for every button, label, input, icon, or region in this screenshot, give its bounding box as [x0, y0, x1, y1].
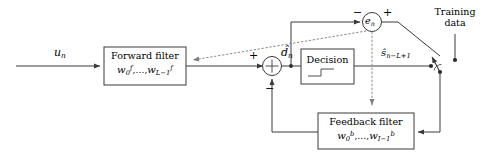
summing-minus-sign: −: [265, 83, 274, 94]
summing-plus-sign: +: [249, 50, 258, 61]
diagram-lines: [0, 0, 492, 152]
error-minus-text: −: [353, 6, 362, 19]
switch-contact-right: [453, 58, 457, 62]
summing-minus-text: −: [265, 82, 274, 95]
fb-coef-base-last: w: [369, 130, 378, 141]
feedback-to-sum-line: [272, 79, 318, 132]
training-data-line2: data: [425, 17, 485, 28]
fb-coef-ellipsis: ,…,: [354, 131, 369, 141]
ff-coef-ellipsis: ,…,: [133, 65, 148, 75]
soft-estimate-sub: n: [288, 51, 293, 60]
soft-estimate-base: d̂: [281, 46, 288, 59]
fb-coef-sup-last: b: [390, 130, 394, 138]
training-data-line1: Training: [425, 6, 485, 17]
soft-estimate-label: d̂n: [281, 47, 293, 60]
error-plus-sign: +: [383, 7, 392, 18]
feedback-filter-coefficients: w0b,…,wI−1b: [318, 130, 414, 143]
decision-title: Decision: [307, 54, 349, 65]
fb-coef-last-sub: I−1: [378, 135, 391, 143]
feedback-filter-label: Feedback filter: [318, 116, 414, 127]
switch-to-feedback-line: [418, 72, 440, 132]
switch-blade: [432, 57, 440, 72]
feedback-filter-title: Feedback filter: [329, 116, 402, 127]
decision-output-sub: n−L+1: [386, 52, 411, 60]
switch-contact-left: [429, 64, 433, 68]
decision-label: Decision: [301, 54, 354, 65]
error-signal-sub: n: [371, 20, 375, 28]
input-signal-label: un: [54, 47, 66, 60]
ff-coef-base-last: w: [147, 64, 156, 75]
input-signal-sub: n: [61, 51, 66, 60]
forward-filter-coefficients: w0f,…,wL−1f: [104, 64, 186, 77]
forward-filter-label: Forward filter: [104, 50, 186, 61]
error-plus-text: +: [383, 6, 392, 19]
dhat-branch-dot: [289, 64, 293, 68]
summing-plus-text: +: [249, 49, 258, 62]
ff-coef-last-sub: L−1: [156, 69, 171, 77]
decision-output-label: ŝn−L+1: [381, 48, 411, 60]
ff-coef-base-first: w: [117, 64, 126, 75]
fb-coef-base-first: w: [337, 130, 346, 141]
training-data-label: Training data: [425, 6, 485, 28]
ff-coef-sup-last: f: [170, 64, 173, 72]
error-minus-sign: −: [353, 7, 362, 18]
dfe-block-diagram: un Forward filter w0f,…,wL−1f + − d̂n De…: [0, 0, 492, 152]
forward-filter-title: Forward filter: [111, 50, 179, 61]
error-signal-label: en: [365, 16, 375, 27]
